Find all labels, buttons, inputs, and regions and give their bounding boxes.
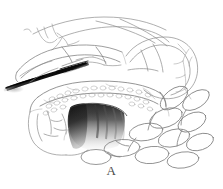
figure-label: A — [0, 164, 223, 178]
surgical-illustration — [0, 0, 223, 189]
figure-panel: A — [0, 0, 223, 189]
